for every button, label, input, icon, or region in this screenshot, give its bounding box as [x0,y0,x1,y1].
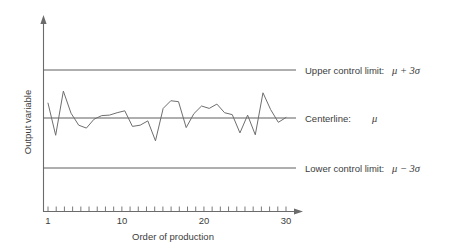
ucl-symbol: μ + 3σ [391,65,421,76]
control-chart-svg: 1 10 20 30 Order of production Output va… [0,0,452,250]
lcl-symbol: μ − 3σ [391,163,421,174]
centerline-symbol: μ [371,113,377,124]
x-axis-arrow-icon [294,208,303,214]
x-tick-label-10: 10 [117,215,128,226]
x-tick-label-1: 1 [45,215,50,226]
lower-control-limit-annotation: Lower control limit: μ − 3σ [305,163,421,175]
x-axis-title: Order of production [132,231,214,242]
y-axis [40,15,46,212]
x-axis-ticks [48,207,286,212]
ucl-label: Upper control limit: [305,65,384,76]
data-series-line [48,91,286,141]
y-axis-arrow-icon [40,15,46,24]
y-axis-title: Output variable [22,90,33,154]
centerline-annotation: Centerline: μ [305,113,377,125]
x-tick-label-20: 20 [199,215,210,226]
lcl-label: Lower control limit: [305,163,384,174]
x-tick-label-30: 30 [281,215,292,226]
control-chart-figure: 1 10 20 30 Order of production Output va… [0,0,452,250]
x-axis [44,208,304,214]
x-axis-tick-labels: 1 10 20 30 [45,215,291,226]
centerline-label: Centerline: [305,113,351,124]
upper-control-limit-annotation: Upper control limit: μ + 3σ [305,65,421,77]
